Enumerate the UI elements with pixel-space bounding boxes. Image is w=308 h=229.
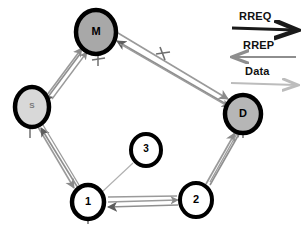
legend-arrow-rreq (232, 28, 295, 30)
legend-label-rrep: RREP (243, 39, 274, 51)
legend-arrow-data (231, 83, 296, 85)
legend-label-rreq: RREQ (239, 10, 272, 22)
legend-arrows-layer (0, 0, 308, 229)
legend-label-data: Data (245, 65, 270, 77)
diagram-canvas: M S D 1 2 3 RREQ RREP Data (0, 0, 308, 229)
